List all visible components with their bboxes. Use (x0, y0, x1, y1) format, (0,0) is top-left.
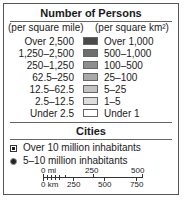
km-range: 1–5 (104, 96, 121, 107)
mile-range: 62.5–250 (32, 72, 74, 83)
density-row: 2.5–12.5 1–5 (4, 96, 178, 107)
dot-icon (10, 158, 17, 165)
density-swatch (83, 37, 98, 45)
divider (10, 122, 172, 123)
square-dot-icon (10, 145, 17, 152)
mile-range: Over 2,500 (25, 36, 74, 47)
legend-title: Number of Persons (4, 7, 178, 19)
density-row: Over 2,500 Over 1,000 (4, 36, 178, 47)
cities-title: Cities (4, 125, 178, 137)
density-row: Under 2.5 Under 1 (4, 108, 178, 119)
scale-tick (59, 175, 60, 180)
units-per-square-mile: (per square mile) (8, 22, 84, 33)
scale-km-label: 250 (67, 180, 80, 189)
city-label: Over 10 million inhabitants (23, 142, 141, 153)
scale-km-label: 0 km (41, 180, 58, 189)
scale-bar: 0 mi 250 500 0 km 250 500 750 (41, 166, 145, 190)
km-range: 500–1,000 (104, 48, 151, 59)
scale-tick (65, 175, 66, 178)
km-range: 5–25 (104, 84, 126, 95)
city-legend-item: Over 10 million inhabitants (10, 142, 141, 153)
mile-range: 250–1,250 (27, 60, 74, 71)
density-swatch (83, 85, 98, 93)
scale-km-label: 750 (130, 180, 143, 189)
density-row: 250–1,250 100–500 (4, 60, 178, 71)
scale-km-label: 500 (98, 180, 111, 189)
city-legend-item: 5–10 million inhabitants (10, 155, 128, 166)
km-range: 100–500 (104, 60, 143, 71)
scale-tick (93, 174, 94, 178)
mile-range: 12.5–62.5 (30, 84, 75, 95)
mile-range: 1,250–2,500 (18, 48, 74, 59)
density-row: 1,250–2,500 500–1,000 (4, 48, 178, 59)
density-swatch (83, 73, 98, 81)
density-swatch (83, 97, 98, 105)
km-range: Under 1 (104, 108, 140, 119)
mile-range: 2.5–12.5 (35, 96, 74, 107)
density-row: 62.5–250 25–100 (4, 72, 178, 83)
map-legend: Number of Persons (per square mile) (per… (3, 3, 179, 195)
density-row: 12.5–62.5 5–25 (4, 84, 178, 95)
scale-mi-label: 250 (85, 166, 98, 175)
density-swatch (83, 61, 98, 69)
city-label: 5–10 million inhabitants (23, 155, 128, 166)
km-range: 25–100 (104, 72, 137, 83)
density-swatch (83, 109, 98, 117)
units-per-square-km: (per square km²) (95, 22, 169, 33)
divider (10, 139, 172, 140)
mile-range: Under 2.5 (30, 108, 74, 119)
scale-tick (142, 174, 143, 178)
km-range: Over 1,000 (104, 36, 153, 47)
density-swatch (83, 49, 98, 57)
